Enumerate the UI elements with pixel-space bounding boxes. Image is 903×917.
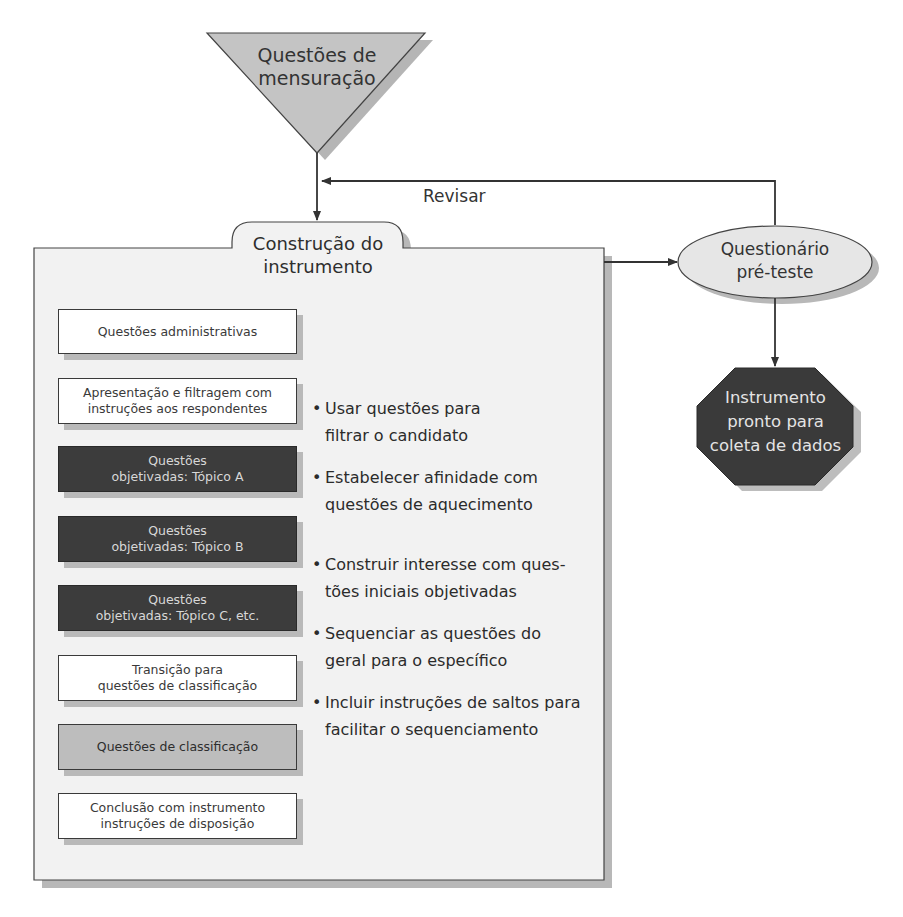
box-transition: Transição paraquestões de classificação xyxy=(58,655,297,701)
label-line: pré-teste xyxy=(680,261,870,284)
box-text: Questões xyxy=(111,453,243,469)
box-text: objetivadas: Tópico C, etc. xyxy=(96,608,260,624)
box-topic-a: Questõesobjetivadas: Tópico A xyxy=(58,446,297,492)
bullet-text: tões iniciais objetivadas xyxy=(312,578,602,605)
label-line: Questionário xyxy=(680,238,870,261)
box-text: Apresentação e filtragem com xyxy=(83,385,272,401)
bullet-text: Construir interesse com ques- xyxy=(312,551,602,578)
bullet-icon: • xyxy=(312,464,321,491)
bullet-text: filtrar o candidato xyxy=(312,422,602,449)
box-text: objetivadas: Tópico A xyxy=(111,469,243,485)
box-text: Questões administrativas xyxy=(98,324,258,340)
box-text: Transição para xyxy=(98,662,257,678)
box-text: objetivadas: Tópico B xyxy=(111,539,243,555)
label-line: coleta de dados xyxy=(697,434,854,458)
box-topic-c: Questõesobjetivadas: Tópico C, etc. xyxy=(58,585,297,631)
bullet-icon: • xyxy=(312,620,321,647)
bullet-text: geral para o específico xyxy=(312,647,602,674)
box-text: instruções de disposição xyxy=(90,816,265,832)
bullet-text: Sequenciar as questões do xyxy=(312,620,602,647)
title-line: Construção do xyxy=(232,232,404,255)
box-text: Questões xyxy=(111,523,243,539)
revise-arrow xyxy=(322,181,775,225)
list-item: • Sequenciar as questões do geral para o… xyxy=(312,620,602,674)
label-line: mensuração xyxy=(232,67,402,90)
bullet-icon: • xyxy=(312,551,321,578)
list-item: • Estabelecer afinidade com questões de … xyxy=(312,464,602,518)
box-text: questões de classificação xyxy=(98,678,257,694)
box-administrative-questions: Questões administrativas xyxy=(58,309,297,354)
box-text: Questões de classificação xyxy=(97,739,258,755)
bullet-text: Incluir instruções de saltos para xyxy=(312,689,602,716)
box-conclusion: Conclusão com instrumentoinstruções de d… xyxy=(58,793,297,839)
list-item: • Construir interesse com ques- tões ini… xyxy=(312,551,602,605)
ready-instrument-label: Instrumento pronto para coleta de dados xyxy=(697,386,854,458)
list-item: • Incluir instruções de saltos para faci… xyxy=(312,689,602,743)
revise-label: Revisar xyxy=(423,186,486,206)
box-classification: Questões de classificação xyxy=(58,724,297,770)
bullet-text: Usar questões para xyxy=(312,395,602,422)
bullet-text: Estabelecer afinidade com xyxy=(312,464,602,491)
box-introduction-screening: Apresentação e filtragem cominstruções a… xyxy=(58,378,297,424)
title-line: instrumento xyxy=(232,255,404,278)
box-topic-b: Questõesobjetivadas: Tópico B xyxy=(58,516,297,562)
bullet-text: questões de aquecimento xyxy=(312,491,602,518)
measurement-questions-label: Questões de mensuração xyxy=(232,44,402,90)
box-text: Conclusão com instrumento xyxy=(90,800,265,816)
box-text: instruções aos respondentes xyxy=(83,401,272,417)
label-line: Instrumento xyxy=(697,386,854,410)
label-line: pronto para xyxy=(697,410,854,434)
bullet-icon: • xyxy=(312,689,321,716)
list-item: • Usar questões para filtrar o candidato xyxy=(312,395,602,449)
pretest-label: Questionário pré-teste xyxy=(680,238,870,284)
construction-title: Construção do instrumento xyxy=(232,232,404,278)
bullet-text: facilitar o sequenciamento xyxy=(312,716,602,743)
box-text: Questões xyxy=(96,592,260,608)
label-line: Questões de xyxy=(232,44,402,67)
bullet-icon: • xyxy=(312,395,321,422)
